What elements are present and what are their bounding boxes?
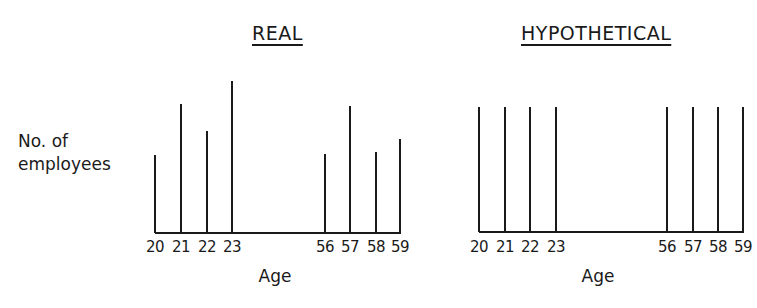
x-tick-label: 21: [172, 238, 190, 256]
x-tick-label: 23: [547, 238, 565, 256]
x-tick-label: 59: [734, 238, 752, 256]
x-tick-label: 59: [391, 238, 409, 256]
x-tick-label: 22: [198, 238, 216, 256]
x-tick-label: 56: [316, 238, 334, 256]
x-tick-label: 21: [496, 238, 514, 256]
x-tick-label: 58: [709, 238, 727, 256]
hypothetical-x-axis-label: Age: [582, 266, 615, 286]
x-tick-label: 57: [341, 238, 359, 256]
x-tick-label: 57: [684, 238, 702, 256]
x-tick-label: 56: [658, 238, 676, 256]
real-chart-bars: [155, 81, 400, 233]
x-tick-label: 58: [367, 238, 385, 256]
x-tick-label: 20: [146, 238, 164, 256]
x-tick-label: 22: [521, 238, 539, 256]
real-x-axis-label: Age: [259, 266, 292, 286]
x-tick-label: 20: [470, 238, 488, 256]
charts-plot-area: [0, 0, 757, 308]
hypothetical-chart-bars: [479, 107, 743, 232]
x-tick-label: 23: [223, 238, 241, 256]
